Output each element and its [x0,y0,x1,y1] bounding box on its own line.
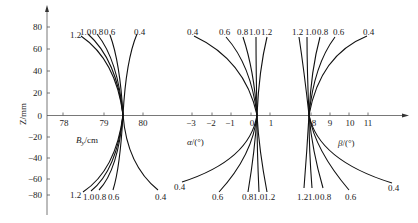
svg-text:10: 10 [346,118,356,128]
panel2-curves [182,36,267,192]
svg-text:0.4: 0.4 [388,183,400,193]
x-axis-arrow-icon [402,114,409,118]
svg-text:1.2: 1.2 [70,190,81,200]
svg-text:80: 80 [139,118,149,128]
curve-0.8 [243,37,257,192]
svg-text:0.4: 0.4 [174,182,186,192]
svg-text:−80: −80 [28,190,43,200]
chart: 80 60 40 20 0 −20 −40 −60 −80 Z/mm 78 79… [0,0,418,223]
svg-text:0.4: 0.4 [134,27,146,37]
panel3-curves [299,36,392,190]
panel1-curves [81,34,158,192]
svg-text:80: 80 [33,22,43,32]
svg-text:0.4: 0.4 [187,27,199,37]
panel2-x-ticks [192,113,270,116]
panel2-x-axis-title: α/(°) [187,137,204,147]
curve-0.4 [309,36,392,183]
svg-text:1.2: 1.2 [297,192,308,202]
svg-text:1.2: 1.2 [292,27,303,37]
panel3-x-axis-title: β/(°) [337,138,355,148]
svg-text:11: 11 [364,118,373,128]
panel3-x-ticks [311,113,368,116]
svg-text:1.0: 1.0 [83,192,95,202]
svg-text:0.8: 0.8 [242,192,254,202]
svg-text:40: 40 [33,66,43,76]
svg-text:20: 20 [33,88,43,98]
svg-text:0: 0 [38,111,43,121]
svg-text:0.4: 0.4 [363,27,375,37]
svg-text:0.8: 0.8 [237,27,249,37]
svg-text:0.8: 0.8 [317,27,329,37]
panel1-x-ticks [63,113,143,116]
svg-text:0.8: 0.8 [320,192,332,202]
svg-text:78: 78 [60,118,70,128]
svg-text:1: 1 [269,118,274,128]
svg-text:0.4: 0.4 [155,192,167,202]
panel1-top-labels: 1.2 1.0 0.8 0.6 0.4 [70,27,146,40]
panel1-bottom-labels: 1.2 1.0 0.8 0.6 0.4 [70,190,167,202]
panel1-x-tick-labels: 78 79 80 [60,118,149,128]
svg-text:0.6: 0.6 [104,27,116,37]
curve-0.4 [182,36,257,182]
svg-text:79: 79 [100,118,110,128]
svg-text:1.0: 1.0 [253,192,265,202]
svg-text:1.0: 1.0 [308,192,320,202]
panel3-bottom-labels: 1.2 1.0 0.8 0.6 0.4 [297,183,400,202]
y-axis-arrow-icon [45,5,49,12]
svg-text:1.2: 1.2 [261,27,272,37]
svg-text:0.6: 0.6 [345,192,357,202]
y-tick-labels: 80 60 40 20 0 −20 −40 −60 −80 [28,22,43,200]
svg-text:9: 9 [328,118,333,128]
svg-text:1.0: 1.0 [305,27,317,37]
y-axis-title: Z/mm [18,103,28,125]
svg-text:−1: −1 [225,118,235,128]
panel2-top-labels: 0.4 0.6 0.8 1.0 1.2 [187,27,272,37]
curve-0.6 [110,35,123,190]
svg-text:0.6: 0.6 [219,27,231,37]
svg-text:0.6: 0.6 [108,192,120,202]
svg-text:−2: −2 [206,118,216,128]
curve-0.4 [123,34,158,190]
svg-text:1.0: 1.0 [249,27,261,37]
svg-text:−60: −60 [28,174,43,184]
svg-text:−3: −3 [186,118,196,128]
svg-text:0.8: 0.8 [95,192,107,202]
svg-text:0.8: 0.8 [92,27,104,37]
panel3-x-tick-labels: 8 9 10 11 [312,118,373,128]
svg-text:1.2: 1.2 [264,192,275,202]
svg-text:1.0: 1.0 [80,27,92,37]
svg-text:0.6: 0.6 [212,192,224,202]
panel2-x-tick-labels: −3 −2 −1 0 1 [186,118,273,128]
svg-text:0.6: 0.6 [333,27,345,37]
panel3-top-labels: 1.2 1.0 0.8 0.6 0.4 [292,27,375,37]
svg-text:−40: −40 [28,153,43,163]
svg-text:60: 60 [33,44,43,54]
svg-text:−20: −20 [28,132,43,142]
panel1-x-axis-title: By/cm [76,135,98,147]
y-ticks [47,27,50,195]
